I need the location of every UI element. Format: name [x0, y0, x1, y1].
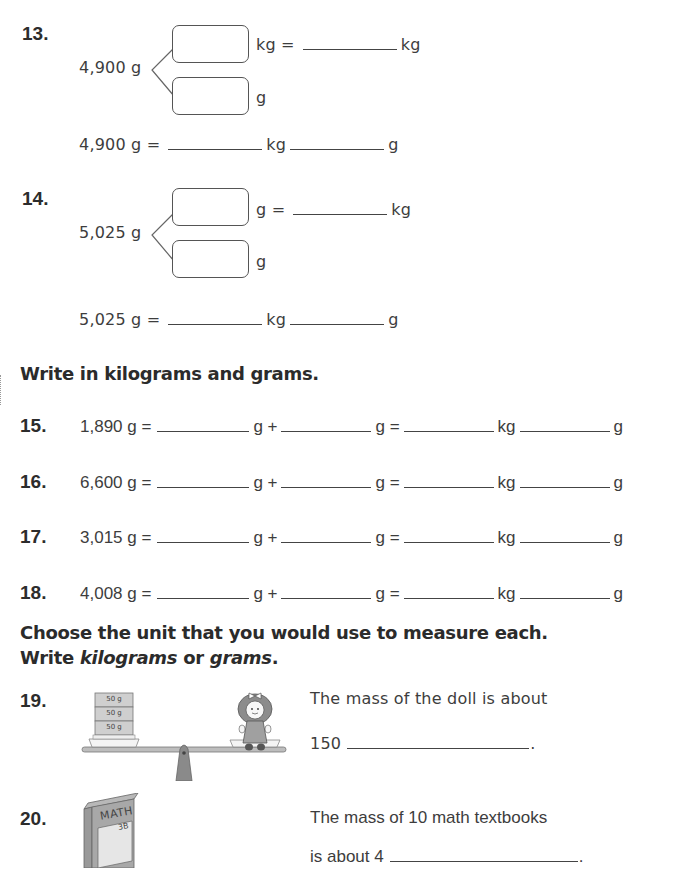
unit-label: g — [614, 417, 623, 437]
answer-blank-20[interactable] — [390, 860, 578, 862]
answer-blank[interactable] — [157, 541, 249, 543]
heading-text: or — [177, 647, 210, 668]
answer-blank-14-kg[interactable] — [293, 213, 387, 215]
answer-blank[interactable] — [404, 486, 494, 488]
unit-label: kg — [498, 417, 516, 437]
answer-blank[interactable] — [157, 486, 249, 488]
equation-left: 1,890 g = — [80, 417, 151, 437]
answer-blank[interactable] — [520, 430, 610, 432]
unit-label: g — [614, 528, 623, 548]
answer-blank-13-eq-kg[interactable] — [168, 148, 262, 150]
problem-number: 15. — [20, 415, 80, 437]
unit-label: g — [614, 584, 623, 604]
answer-blank-13-kg[interactable] — [303, 48, 397, 50]
problem-14-g-box-bottom[interactable] — [172, 240, 249, 278]
page-title-partial — [22, 0, 122, 2]
section-heading-choose-unit: Choose the unit that you would use to me… — [20, 622, 548, 643]
unit-label: kg — [391, 200, 411, 219]
unit-label: g + — [253, 584, 277, 604]
answer-blank-19[interactable] — [347, 747, 529, 749]
answer-blank-14-eq-g[interactable] — [290, 323, 384, 325]
problem-13-kg-box[interactable] — [172, 25, 249, 63]
problem-13-top-equation: kg = kg — [256, 35, 421, 54]
balance-scale-illustration: 50 g 50 g 50 g — [80, 685, 290, 781]
equation-left: 3,015 g = — [80, 528, 151, 548]
equation-left: 6,600 g = — [80, 473, 151, 493]
heading-emphasis-grams: grams — [210, 647, 272, 668]
problem-13-g-box[interactable] — [172, 77, 249, 115]
problem-20-line2: is about 4 . — [310, 847, 583, 867]
problem-number: 17. — [20, 526, 80, 548]
conversion-row-15: 15. 1,890 g = g + g = kg g — [20, 415, 623, 437]
section-heading-choose-unit-line2: Write kilograms or grams. — [20, 647, 278, 668]
equation-left: 4,900 g = — [79, 135, 160, 154]
answer-blank[interactable] — [281, 486, 371, 488]
problem-13-bottom-unit: g — [256, 88, 266, 107]
problem-number-19: 19. — [20, 690, 46, 712]
equation-left: 4,008 g = — [80, 584, 151, 604]
unit-label: g = — [375, 473, 399, 493]
answer-blank[interactable] — [404, 541, 494, 543]
equation-left: 5,025 g = — [79, 310, 160, 329]
weight-label: 50 g — [95, 723, 133, 731]
unit-label: kg = — [256, 35, 295, 54]
conversion-row-16: 16. 6,600 g = g + g = kg g — [20, 471, 623, 493]
answer-blank[interactable] — [157, 430, 249, 432]
answer-blank[interactable] — [281, 430, 371, 432]
value: 150 — [310, 734, 341, 753]
problem-14-bottom-unit: g — [256, 252, 266, 271]
problem-13-total: 4,900 g — [79, 58, 141, 77]
unit-label: g = — [375, 584, 399, 604]
math-textbook-illustration: MATH 3B — [78, 793, 148, 868]
answer-blank[interactable] — [281, 541, 371, 543]
answer-blank[interactable] — [157, 597, 249, 599]
answer-blank[interactable] — [520, 486, 610, 488]
answer-blank-13-eq-g[interactable] — [290, 148, 384, 150]
answer-blank[interactable] — [404, 597, 494, 599]
heading-text: . — [272, 647, 279, 668]
unit-label: g — [388, 135, 398, 154]
unit-label: g + — [253, 473, 277, 493]
unit-label: g + — [253, 417, 277, 437]
answer-blank-14-eq-kg[interactable] — [168, 323, 262, 325]
problem-14-top-equation: g = kg — [256, 200, 411, 219]
unit-label: kg — [266, 310, 286, 329]
problem-13-equation: 4,900 g = kg g — [79, 135, 399, 154]
problem-number: 18. — [20, 582, 80, 604]
conversion-row-17: 17. 3,015 g = g + g = kg g — [20, 526, 623, 548]
unit-label: g — [614, 473, 623, 493]
weight-label: 50 g — [95, 695, 133, 703]
heading-emphasis-kilograms: kilograms — [80, 647, 177, 668]
unit-label: kg — [498, 473, 516, 493]
book-icon — [78, 793, 148, 868]
heading-text: Write — [20, 647, 80, 668]
section-heading-write-kg-g: Write in kilograms and grams. — [20, 363, 319, 384]
unit-label: g + — [253, 528, 277, 548]
unit-label: kg — [498, 528, 516, 548]
problem-number-13: 13. — [22, 23, 48, 45]
answer-blank[interactable] — [520, 597, 610, 599]
problem-19-line1: The mass of the doll is about — [310, 689, 548, 708]
unit-label: kg — [498, 584, 516, 604]
unit-label: kg — [266, 135, 286, 154]
unit-label: g — [388, 310, 398, 329]
problem-19-line2: 150 . — [310, 734, 535, 753]
problem-number: 16. — [20, 471, 80, 493]
weight-label: 50 g — [95, 709, 133, 717]
problem-20-line1: The mass of 10 math textbooks — [310, 808, 547, 828]
problem-number-14: 14. — [22, 188, 48, 210]
problem-14-g-box-top[interactable] — [172, 188, 249, 226]
conversion-row-18: 18. 4,008 g = g + g = kg g — [20, 582, 623, 604]
page-edge-mark — [0, 375, 4, 405]
problem-number-20: 20. — [20, 808, 46, 830]
answer-blank[interactable] — [404, 430, 494, 432]
answer-blank[interactable] — [281, 597, 371, 599]
value: is about 4 — [310, 847, 384, 867]
problem-14-equation: 5,025 g = kg g — [79, 310, 399, 329]
punctuation: . — [530, 734, 535, 753]
problem-14-total: 5,025 g — [79, 223, 141, 242]
answer-blank[interactable] — [520, 541, 610, 543]
book-label: 3B — [117, 821, 129, 832]
punctuation: . — [579, 847, 584, 867]
unit-label: g = — [375, 417, 399, 437]
